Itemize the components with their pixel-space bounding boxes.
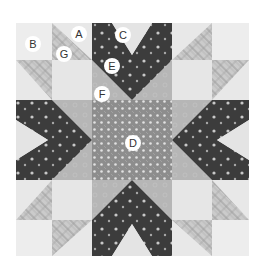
label-d: D — [125, 135, 141, 151]
label-f: F — [94, 86, 110, 102]
label-g: G — [56, 46, 72, 62]
label-b: B — [25, 36, 41, 52]
label-c: C — [115, 27, 131, 43]
label-e: E — [104, 58, 120, 74]
label-a: A — [71, 26, 87, 42]
